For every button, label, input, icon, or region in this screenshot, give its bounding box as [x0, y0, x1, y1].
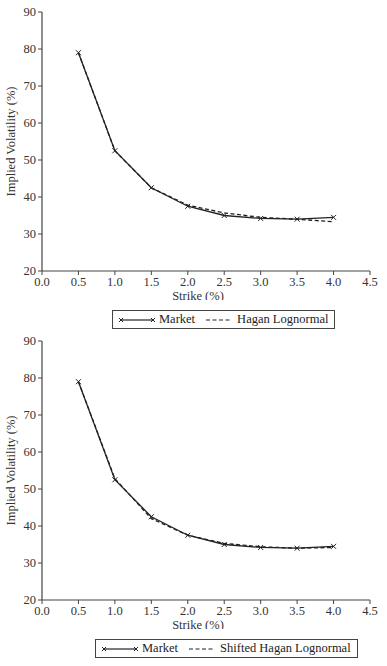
y-tick-label: 30	[24, 556, 37, 570]
y-axis-label: Implied Volatility (%)	[4, 87, 18, 197]
y-tick-label: 80	[24, 371, 37, 385]
x-tick-label: 4.0	[326, 604, 342, 618]
x-tick-label: 3.0	[253, 275, 269, 289]
legend-label-model: Shifted Hagan Lognormal	[220, 641, 351, 656]
x-axis-label: Strike (%)	[172, 289, 224, 300]
chart-hagan-lognormal: 20304050607080900.00.51.01.52.02.53.03.5…	[0, 0, 387, 330]
chart-shifted-hagan-lognormal: 20304050607080900.00.51.01.52.02.53.03.5…	[0, 329, 387, 666]
legend-label-market: Market	[159, 312, 195, 327]
y-tick-label: 70	[24, 79, 37, 93]
legend-label-market: Market	[142, 641, 178, 656]
plot-area: 20304050607080900.00.51.01.52.02.53.03.5…	[0, 0, 387, 300]
x-tick-label: 0.5	[71, 275, 87, 289]
legend: Market Hagan Lognormal	[112, 310, 335, 329]
x-axis-label: Strike (%)	[172, 618, 224, 629]
model-series-line	[78, 53, 333, 222]
x-tick-label: 2.0	[180, 604, 196, 618]
y-tick-label: 60	[24, 116, 37, 130]
y-tick-label: 50	[24, 482, 37, 496]
x-tick-label: 0.0	[34, 604, 50, 618]
y-tick-label: 30	[24, 227, 37, 241]
x-tick-label: 0.0	[34, 275, 50, 289]
y-tick-label: 80	[24, 42, 37, 56]
x-marker-icon	[149, 185, 154, 190]
model-series-line	[78, 382, 333, 549]
x-tick-label: 3.5	[289, 604, 305, 618]
y-tick-label: 90	[24, 334, 37, 348]
dashed-line-swatch-icon	[188, 644, 216, 654]
y-tick-label: 90	[24, 5, 37, 19]
market-line-swatch-icon	[119, 315, 155, 325]
y-tick-label: 40	[24, 190, 37, 204]
market-line-swatch-icon	[102, 644, 138, 654]
x-tick-label: 4.5	[362, 604, 378, 618]
y-tick-label: 40	[24, 519, 37, 533]
y-tick-label: 70	[24, 408, 37, 422]
x-tick-label: 1.0	[107, 275, 123, 289]
y-tick-label: 60	[24, 445, 37, 459]
legend-label-model: Hagan Lognormal	[237, 312, 328, 327]
x-tick-label: 3.0	[253, 604, 269, 618]
y-axis-label: Implied Volatility (%)	[4, 416, 18, 526]
x-tick-label: 1.5	[144, 275, 160, 289]
x-tick-label: 4.0	[326, 275, 342, 289]
x-tick-label: 2.5	[216, 604, 232, 618]
x-tick-label: 0.5	[71, 604, 87, 618]
legend: Market Shifted Hagan Lognormal	[95, 639, 358, 658]
plot-area: 20304050607080900.00.51.01.52.02.53.03.5…	[0, 329, 387, 629]
y-tick-label: 50	[24, 153, 37, 167]
market-series-line	[78, 382, 333, 549]
x-tick-label: 4.5	[362, 275, 378, 289]
x-tick-label: 2.0	[180, 275, 196, 289]
market-series-line	[78, 53, 333, 220]
dashed-line-swatch-icon	[205, 315, 233, 325]
x-tick-label: 1.0	[107, 604, 123, 618]
x-tick-label: 2.5	[216, 275, 232, 289]
x-tick-label: 3.5	[289, 275, 305, 289]
x-tick-label: 1.5	[144, 604, 160, 618]
